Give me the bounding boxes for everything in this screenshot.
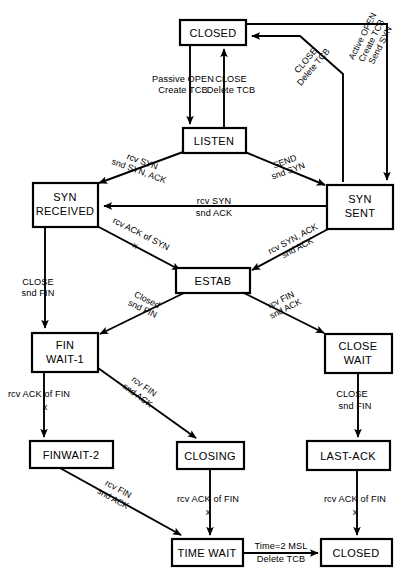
- edge-label-line1: CLOSE: [215, 74, 247, 84]
- edge-label-line2: x: [43, 402, 48, 412]
- state-label: TIME WAIT: [177, 547, 236, 559]
- edge-label-line1: rcv ACK of FIN: [8, 389, 70, 399]
- state-label-line1: SYN: [53, 191, 77, 203]
- edge-label-line2: Delete TCB: [207, 85, 255, 95]
- state-closed-top[interactable]: CLOSED: [180, 20, 246, 45]
- state-label-line1: SYN: [348, 193, 372, 205]
- state-label-line2: WAIT: [344, 354, 372, 366]
- state-syn-received[interactable]: SYN RECEIVED: [33, 183, 98, 227]
- edge-label-line1: rcv ACK of FIN: [324, 494, 386, 504]
- state-label: CLOSED: [189, 27, 236, 39]
- state-label: CLOSING: [184, 450, 236, 462]
- edge-label-line2: snd ACK: [196, 208, 233, 218]
- state-fin-wait-1[interactable]: FIN WAIT-1: [32, 333, 98, 372]
- state-label: ESTAB: [195, 275, 232, 287]
- edge-label-line1: CLOSE: [22, 277, 54, 287]
- edge-label-line1: CLOSE: [336, 389, 368, 399]
- state-closing[interactable]: CLOSING: [177, 442, 244, 469]
- state-label-line2: RECEIVED: [36, 205, 95, 217]
- state-label-line1: CLOSE: [339, 340, 378, 352]
- state-time-wait[interactable]: TIME WAIT: [172, 539, 243, 566]
- edge-label-line2: snd FIN: [22, 288, 55, 298]
- state-close-wait[interactable]: CLOSE WAIT: [325, 334, 392, 373]
- state-label: CLOSED: [332, 547, 379, 559]
- state-label-line1: FIN: [56, 339, 75, 351]
- state-closed-bottom[interactable]: CLOSED: [321, 539, 392, 566]
- edge-label-synrcvd-to-finwait1: CLOSE snd FIN: [22, 277, 55, 298]
- edge-label-closed-to-listen: Passive OPEN Create TCB: [152, 74, 214, 95]
- state-label: FINWAIT-2: [43, 449, 100, 461]
- state-last-ack[interactable]: LAST-ACK: [307, 441, 390, 470]
- tcp-state-diagram-canvas: CLOSED LISTEN SYN RECEIVED SYN SENT ESTA…: [0, 0, 410, 578]
- edge-label-line2: Delete TCB: [257, 554, 305, 564]
- edge-label-line1: Time=2 MSL: [255, 541, 308, 551]
- edge-label-line2: x: [206, 507, 211, 517]
- edge-label-line1: Passive OPEN: [152, 74, 214, 84]
- edge-label-line2: x: [353, 507, 358, 517]
- state-label: LISTEN: [194, 135, 234, 147]
- state-label-line2: WAIT-1: [46, 353, 84, 365]
- edge-label-line1: rcv SYN: [197, 196, 231, 206]
- edge-label-line2: snd FIN: [339, 401, 372, 411]
- edge-label-line2: Create TCB: [158, 85, 207, 95]
- state-syn-sent[interactable]: SYN SENT: [327, 185, 393, 229]
- state-finwait-2[interactable]: FINWAIT-2: [30, 441, 113, 468]
- state-label: LAST-ACK: [320, 450, 376, 462]
- state-label-line2: SENT: [345, 207, 376, 219]
- tcp-state-diagram: CLOSED LISTEN SYN RECEIVED SYN SENT ESTA…: [0, 0, 410, 578]
- state-listen[interactable]: LISTEN: [183, 128, 246, 153]
- state-estab[interactable]: ESTAB: [176, 268, 250, 293]
- edge-label-line1: rcv ACK of FIN: [177, 494, 239, 504]
